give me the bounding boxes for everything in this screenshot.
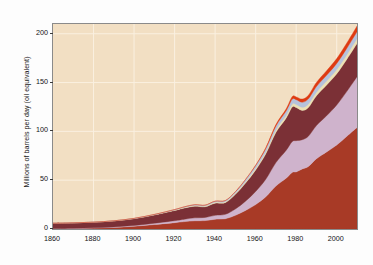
x-tick-label: 1980 bbox=[275, 234, 315, 243]
y-tick-label: 50 bbox=[26, 175, 48, 183]
y-tick-label: 150 bbox=[26, 78, 48, 86]
y-tick-mark bbox=[50, 179, 53, 180]
y-tick-label: 0 bbox=[26, 224, 48, 232]
plot-area bbox=[52, 23, 358, 230]
y-tick-label: 100 bbox=[26, 126, 48, 134]
y-tick-mark bbox=[50, 82, 53, 83]
stacked-area-svg bbox=[53, 24, 357, 229]
x-tick-label: 2000 bbox=[316, 234, 356, 243]
y-tick-mark bbox=[50, 130, 53, 131]
y-tick-mark bbox=[50, 33, 53, 34]
x-tick-label: 1860 bbox=[32, 234, 72, 243]
area-series-group bbox=[53, 26, 357, 229]
x-tick-label: 1880 bbox=[73, 234, 113, 243]
x-tick-label: 1940 bbox=[194, 234, 234, 243]
x-tick-label: 1960 bbox=[235, 234, 275, 243]
y-tick-label: 200 bbox=[26, 29, 48, 37]
chart-figure: Millions of barrels per day (oil equival… bbox=[0, 0, 373, 265]
y-axis-tick-labels: 050100150200 bbox=[22, 0, 48, 265]
x-tick-label: 1900 bbox=[113, 234, 153, 243]
x-tick-label: 1920 bbox=[154, 234, 194, 243]
y-tick-mark bbox=[50, 228, 53, 229]
